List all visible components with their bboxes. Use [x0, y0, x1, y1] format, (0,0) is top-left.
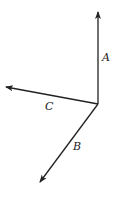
vector-label-b: B — [73, 141, 81, 152]
vector-label-a: A — [102, 52, 110, 63]
vector-arrows — [0, 0, 121, 199]
vector-b-arrow — [40, 104, 98, 182]
vector-diagram: A C B — [0, 0, 121, 199]
vector-label-c: C — [45, 101, 53, 112]
